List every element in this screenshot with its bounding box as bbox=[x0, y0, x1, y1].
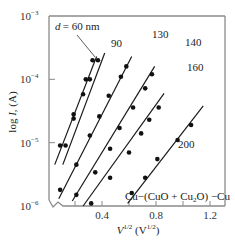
series-label-90: 90 bbox=[111, 37, 123, 49]
y-axis-title: log I, (A) bbox=[6, 91, 19, 133]
series-label-130: 130 bbox=[152, 28, 169, 40]
data-point bbox=[81, 92, 86, 97]
data-point bbox=[93, 170, 98, 175]
x-tick-label: 0.8 bbox=[149, 209, 163, 221]
series-line bbox=[63, 53, 105, 165]
data-point bbox=[143, 86, 148, 91]
x-tick-label: 1.2 bbox=[203, 209, 217, 221]
data-point bbox=[127, 150, 132, 155]
data-point bbox=[74, 162, 79, 167]
data-point bbox=[117, 126, 122, 131]
data-point bbox=[96, 58, 101, 63]
y-tick-label: 10−6 bbox=[20, 199, 39, 212]
data-point bbox=[189, 123, 194, 128]
data-point bbox=[150, 72, 155, 77]
data-point bbox=[88, 133, 93, 138]
data-point bbox=[124, 64, 129, 69]
data-point bbox=[108, 147, 113, 152]
x-axis-title: V1/2 (V1/2) bbox=[117, 223, 160, 237]
chart-svg: 10−310−410−510−60.40.81.2 d = 60 nm90130… bbox=[0, 0, 235, 240]
data-point bbox=[119, 74, 124, 79]
data-point bbox=[143, 175, 148, 180]
series-label-200: 200 bbox=[178, 138, 195, 150]
data-point bbox=[89, 201, 94, 206]
y-tick-label: 10−3 bbox=[20, 9, 39, 22]
data-point bbox=[156, 105, 161, 110]
data-point bbox=[71, 112, 76, 117]
leader-line bbox=[77, 35, 95, 57]
series-label-60: d = 60 nm bbox=[55, 20, 100, 32]
data-point bbox=[58, 143, 63, 148]
data-point bbox=[155, 157, 160, 162]
series-line bbox=[55, 56, 97, 164]
x-tick-label: 0.4 bbox=[95, 209, 109, 221]
y-tick-label: 10−5 bbox=[20, 136, 39, 149]
series-label-140: 140 bbox=[185, 36, 202, 48]
data-lines bbox=[55, 53, 204, 206]
data-point bbox=[90, 58, 95, 63]
series-label-160: 160 bbox=[187, 61, 204, 73]
data-point bbox=[139, 131, 144, 136]
data-point bbox=[131, 105, 136, 110]
data-point bbox=[97, 114, 102, 119]
data-points bbox=[58, 58, 194, 206]
data-point bbox=[88, 77, 93, 82]
data-point bbox=[106, 93, 111, 98]
data-point bbox=[108, 175, 113, 180]
data-point bbox=[58, 188, 63, 193]
data-point bbox=[63, 143, 68, 148]
data-point bbox=[147, 117, 152, 122]
data-point bbox=[74, 193, 79, 198]
y-tick-label: 10−4 bbox=[20, 72, 39, 85]
annotation-label: Cu−(CuO + Cu2O) −Cu bbox=[125, 190, 230, 204]
data-point bbox=[84, 77, 89, 82]
data-point bbox=[71, 116, 76, 121]
series-line bbox=[128, 106, 204, 203]
